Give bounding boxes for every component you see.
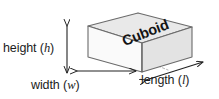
length-label: length (l) (141, 74, 189, 87)
width-word: width (31, 78, 60, 92)
width-label: width (w) (31, 79, 79, 92)
paren-close: ) (185, 73, 189, 87)
cuboid-diagram: height (h) width (w) length (l) Cuboid (0, 0, 219, 99)
length-word: length (141, 73, 174, 87)
height-word: height (3, 41, 36, 55)
height-label: height (h) (3, 42, 54, 55)
paren-close: ) (50, 41, 54, 55)
paren-close: ) (75, 78, 79, 92)
